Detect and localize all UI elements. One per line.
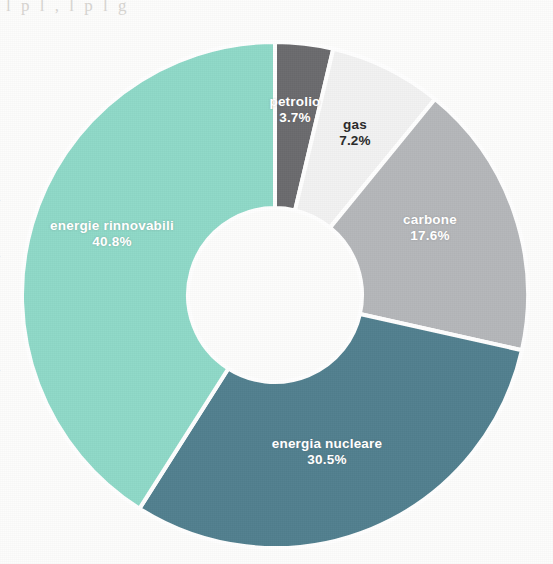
slice-label-name: gas — [339, 117, 371, 133]
slice-label-energie-rinnovabili: energie rinnovabili40.8% — [50, 218, 174, 250]
slice-label-gas: gas7.2% — [339, 117, 371, 149]
slice-label-name: energie rinnovabili — [50, 218, 174, 234]
slice-label-value: 7.2% — [339, 133, 371, 149]
slice-label-value: 40.8% — [50, 234, 174, 250]
slice-label-energia-nucleare: energia nucleare30.5% — [272, 436, 383, 468]
slice-label-value: 30.5% — [272, 452, 383, 468]
slice-label-value: 3.7% — [269, 110, 320, 126]
donut-chart: petrolio3.7%gas7.2%carbone17.6%energia n… — [0, 0, 553, 564]
slice-label-name: petrolio — [269, 94, 320, 110]
slice-label-petrolio: petrolio3.7% — [269, 94, 320, 126]
slice-label-carbone: carbone17.6% — [403, 212, 457, 244]
slice-label-name: energia nucleare — [272, 436, 383, 452]
donut-chart-svg — [0, 0, 553, 564]
slice-label-name: carbone — [403, 212, 457, 228]
slice-label-value: 17.6% — [403, 228, 457, 244]
